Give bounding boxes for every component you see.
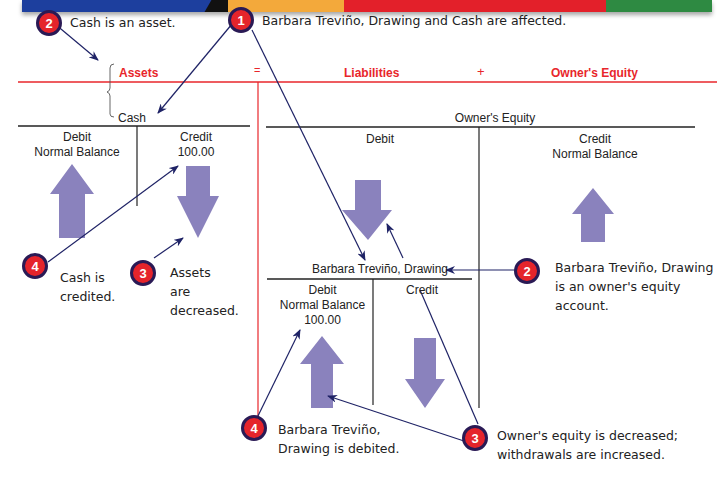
callout-line: account. [555,296,713,315]
step-4-badge-cash: 4 [22,253,48,279]
callout-accounts-affected: Barbara Treviño, Drawing and Cash are af… [262,11,566,30]
owners-equity-credit-label: Credit [540,132,650,147]
cash-credit-column: Credit 100.00 [160,130,232,160]
callout-line: Barbara Treviño, [278,420,399,439]
equation-assets-label: Assets [119,66,158,80]
cash-account-title: Cash [118,111,146,126]
drawing-debit-label: Debit [275,283,370,298]
cash-debit-label: Debit [18,130,136,145]
step-3-badge-equity: 3 [462,425,488,451]
step-2-badge-drawing: 2 [514,258,540,284]
drawing-account-title: Barbara Treviño, Drawing [305,262,455,277]
equation-owners-equity-label: Owner's Equity [551,66,638,80]
owners-equity-normal-balance-label: Normal Balance [540,147,650,162]
equation-liabilities-label: Liabilities [344,66,399,80]
step-1-badge: 1 [228,7,254,33]
cash-credit-amount: 100.00 [160,145,232,160]
owners-equity-debit-label: Debit [340,132,420,147]
step-4-badge-drawing: 4 [241,415,267,441]
callout-equity-decreased-withdrawals-increased: Owner's equity is decreased; withdrawals… [497,426,678,464]
drawing-debit-amount: 100.00 [275,313,370,328]
drawing-normal-balance-label: Normal Balance [275,298,370,313]
drawing-debit-column: Debit Normal Balance 100.00 [275,283,370,328]
callout-line: withdrawals are increased. [497,445,678,464]
owners-equity-credit-column: Credit Normal Balance [540,132,650,162]
callout-line: Assets [170,263,239,282]
owners-equity-account-title: Owner's Equity [430,111,560,126]
cash-normal-balance-label: Normal Balance [18,145,136,160]
cash-credit-label: Credit [160,130,232,145]
callout-line: credited. [60,287,115,306]
equation-equals-sign: = [254,64,260,76]
callout-assets-decreased: Assets are decreased. [170,263,239,320]
callout-line: decreased. [170,301,239,320]
callout-line: Drawing is debited. [278,439,399,458]
drawing-credit-label: Credit [392,283,452,298]
step-2-badge-cash: 2 [36,10,62,36]
callout-line: are [170,282,239,301]
callout-drawing-owners-equity-account: Barbara Treviño, Drawing is an owner's e… [555,258,713,315]
callout-line: Cash is [60,268,115,287]
callout-line: Barbara Treviño, Drawing [555,258,713,277]
callout-drawing-debited: Barbara Treviño, Drawing is debited. [278,420,399,458]
callout-cash-is-asset: Cash is an asset. [70,13,176,32]
step-3-badge-cash: 3 [130,260,156,286]
equation-plus-sign: + [477,64,485,79]
callout-line: Owner's equity is decreased; [497,426,678,445]
cash-debit-column: Debit Normal Balance [18,130,136,160]
callout-cash-credited: Cash is credited. [60,268,115,306]
callout-line: is an owner's equity [555,277,713,296]
